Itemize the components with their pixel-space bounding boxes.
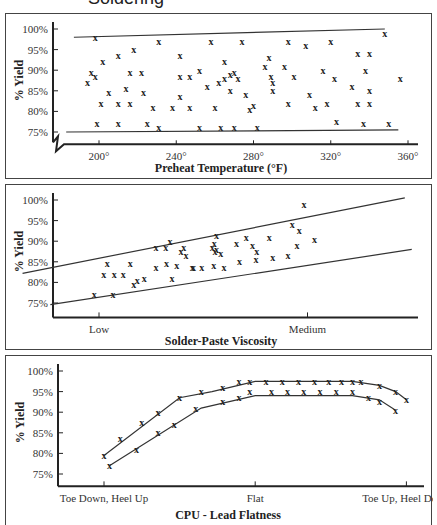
data-point-x: x [156,427,161,438]
y-tick-label: 90% [28,64,48,76]
data-point-x: x [301,386,306,397]
data-point-x: x [244,232,249,243]
data-point-x: x [214,230,219,241]
data-point-x: x [128,258,133,269]
data-point-x: x [187,71,192,82]
data-point-x: x [156,36,161,47]
y-tick-label: 100% [22,194,48,206]
data-point-x: x [290,219,295,230]
data-point-x: x [377,396,382,407]
chart-solder-paste-viscosity: 100%95%90%85%80%75%% YieldLowMediumHighS… [5,184,432,350]
y-tick-label: 75% [28,297,48,309]
data-point-x: x [135,275,140,286]
x-tick-label: Medium [289,323,327,335]
data-point-x: x [269,386,274,397]
data-point-x: x [363,65,368,76]
bound-line-upper [74,29,385,37]
data-point-x: x [355,48,360,59]
data-point-x: x [285,386,290,397]
data-point-x: x [131,44,136,55]
data-point-x: x [124,83,129,94]
data-point-x: x [282,61,287,72]
data-point-x: x [247,386,252,397]
data-point-x: x [178,71,183,82]
data-point-x: x [167,236,172,247]
data-point-x: x [303,40,308,51]
bound-line-lower [109,396,395,466]
data-point-x: x [127,98,132,109]
data-point-x: x [228,85,233,96]
data-point-x: x [178,50,183,61]
data-point-x: x [220,382,225,393]
data-point-x: x [334,386,339,397]
data-point-x: x [367,85,372,96]
data-point-x: x [211,260,216,271]
data-point-x: x [359,376,364,387]
x-axis-title: Preheat Temperature (°F) [155,161,287,175]
data-point-x: x [197,65,202,76]
data-point-x: x [234,238,239,249]
data-point-x: x [98,98,103,109]
chart-preheat-temperature: 100%95%90%85%80%75%% Yield200°240°280°32… [5,13,432,179]
data-point-x: x [156,122,161,133]
data-point-x: x [222,56,227,67]
data-point-x: x [349,81,354,92]
y-axis-title: % Yield [12,59,26,101]
data-point-x: x [218,122,223,133]
data-point-x: x [209,36,214,47]
data-point-x: x [121,269,126,280]
y-tick-label: 95% [28,215,48,227]
data-point-x: x [141,87,146,98]
data-point-x: x [270,85,275,96]
data-point-x: x [205,81,210,92]
data-point-x: x [107,460,112,471]
data-point-x: x [191,262,196,273]
data-point-x: x [236,73,241,84]
data-point-x: x [170,102,175,113]
data-point-x: x [266,52,271,63]
data-point-x: x [350,386,355,397]
data-point-x: x [106,87,111,98]
data-point-x: x [339,376,344,387]
data-point-x: x [386,118,391,129]
data-point-x: x [178,91,183,102]
data-point-x: x [199,386,204,397]
data-point-x: x [251,100,256,111]
data-point-x: x [239,36,244,47]
data-point-x: x [101,269,106,280]
data-point-x: x [267,232,272,243]
data-point-x: x [313,102,318,113]
data-point-x: x [85,77,90,88]
data-point-x: x [292,71,297,82]
x-axis-break [53,136,418,151]
data-point-x: x [243,89,248,100]
chart-plot-flatness: 100%95%90%85%80%75%% YieldToe Down, Heel… [6,356,433,522]
data-point-x: x [382,28,387,39]
x-tick-label: 360° [398,150,419,162]
y-tick-label: 100% [27,365,53,377]
data-point-x: x [156,407,161,418]
data-point-x: x [174,260,179,271]
data-point-x: x [367,48,372,59]
x-tick-label: 200° [89,150,110,162]
bound-line-upper [104,381,406,455]
data-point-x: x [361,118,366,129]
data-point-x: x [153,262,158,273]
data-point-x: x [93,32,98,43]
data-point-x: x [187,102,192,113]
data-point-x: x [222,73,227,84]
data-point-x: x [218,248,223,259]
x-tick-label: Low [89,323,109,335]
data-point-x: x [197,122,202,133]
data-point-x: x [127,67,132,78]
data-point-x: x [212,102,217,113]
data-point-x: x [312,234,317,245]
data-point-x: x [334,116,339,127]
data-point-x: x [112,269,117,280]
data-point-x: x [328,36,333,47]
x-axis-title: CPU - Lead Flatness [175,508,281,522]
y-axis-title: % Yield [12,230,26,272]
data-point-x: x [355,98,360,109]
y-axis-title: % Yield [13,401,27,443]
x-tick-label: Toe Up, Heel Down [362,492,433,504]
